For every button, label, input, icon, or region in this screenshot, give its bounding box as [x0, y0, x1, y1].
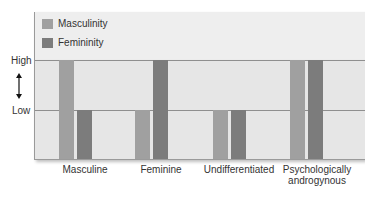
bar-masculine-masculinity	[59, 60, 74, 159]
x-label-androgynous: Psychologicallyandrogynous	[272, 164, 362, 186]
legend-item-masculinity: Masculinity	[42, 18, 107, 29]
legend-label: Masculinity	[58, 18, 107, 29]
legend-item-femininity: Femininity	[42, 37, 104, 48]
bar-undifferentiated-masculinity	[213, 110, 228, 159]
bar-masculine-femininity	[77, 110, 92, 159]
femininity-swatch	[42, 38, 53, 48]
bar-undifferentiated-femininity	[231, 110, 246, 159]
y-label-low: Low	[12, 105, 30, 116]
y-label-high: High	[11, 55, 32, 66]
plot-area	[35, 60, 365, 159]
legend: Masculinity Femininity	[35, 12, 365, 59]
bar-androgynous-femininity	[308, 60, 323, 159]
x-label-feminine: Feminine	[126, 164, 196, 175]
legend-label: Femininity	[58, 37, 104, 48]
bar-androgynous-masculinity	[290, 60, 305, 159]
chart-panel: Masculinity Femininity	[34, 12, 365, 160]
bar-feminine-masculinity	[135, 110, 150, 159]
double-arrow-icon	[15, 73, 23, 99]
x-label-undifferentiated: Undifferentiated	[194, 164, 284, 175]
x-label-masculine: Masculine	[50, 164, 120, 175]
bar-feminine-femininity	[153, 60, 168, 159]
masculinity-swatch	[42, 19, 53, 29]
